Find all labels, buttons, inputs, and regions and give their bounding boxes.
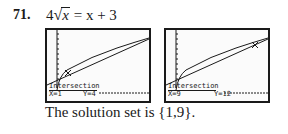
- intersection-label: Intersection: [168, 83, 219, 90]
- solution-period: .: [191, 104, 195, 120]
- x-readout: X=1: [49, 91, 62, 98]
- y-readout: Y=4: [83, 91, 96, 98]
- equation-rhs: = x + 3: [74, 7, 117, 23]
- equation-coefficient: 4: [46, 7, 54, 23]
- calculator-screen-2: Intersection X=9 Y=12: [164, 28, 270, 103]
- solution-text: The solution set is: [45, 104, 155, 120]
- y-readout: Y=12: [214, 91, 231, 98]
- equation-radicand: x: [61, 7, 70, 22]
- x-readout: X=9: [168, 91, 181, 98]
- solution-statement: The solution set is {1,9}.: [45, 104, 195, 121]
- equation: 4√x = x + 3: [46, 6, 117, 24]
- calculator-screen-1: Intersection X=1 Y=4: [45, 28, 151, 103]
- problem-number: 71.: [13, 7, 31, 23]
- intersection-label: Intersection: [49, 83, 100, 90]
- solution-set: {1,9}: [158, 104, 191, 120]
